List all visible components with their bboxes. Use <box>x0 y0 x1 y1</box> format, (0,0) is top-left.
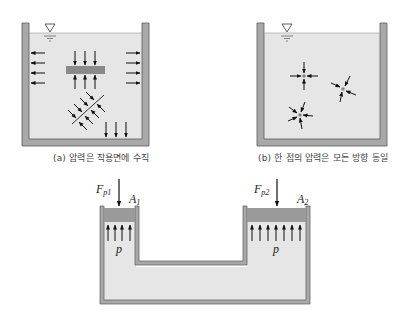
caption-b: (b) 한 점의 압력은 모든 방향 동일 <box>258 151 388 164</box>
caption-a: (a) 압력은 작용면에 수직 <box>53 151 149 164</box>
piston-right <box>247 208 306 222</box>
tank-b <box>257 23 387 146</box>
label-area-right: A2 <box>296 192 308 207</box>
label-pressure-left: p <box>115 242 122 256</box>
submerged-plate <box>66 66 105 74</box>
label-force-left: Fp1 <box>95 182 111 197</box>
label-pressure-right: p <box>272 242 279 256</box>
piston-left <box>104 208 135 222</box>
label-area-left: A1 <box>128 192 140 207</box>
label-force-right: Fp2 <box>253 182 269 197</box>
